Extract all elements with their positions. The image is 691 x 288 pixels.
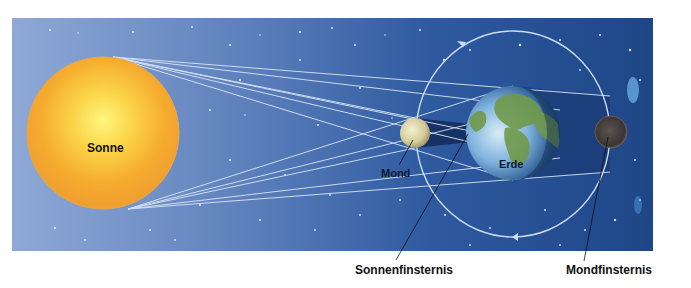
sun-label: Sonne: [87, 141, 124, 155]
earth-label: Erde: [499, 158, 523, 170]
sun: [27, 57, 179, 209]
moon-label: Mond: [381, 167, 410, 179]
solar-eclipse-label: Sonnenfinsternis: [355, 263, 453, 277]
lunar-eclipse-label: Mondfinsternis: [566, 263, 652, 277]
glow-spot: [634, 196, 642, 214]
eclipsed-moon: [595, 116, 627, 148]
moon: [400, 118, 430, 148]
glow-spot: [627, 77, 639, 103]
